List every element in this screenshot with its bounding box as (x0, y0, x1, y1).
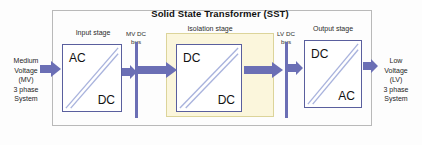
stage-label-isolation: Isolation stage (180, 25, 240, 32)
stage-label-input: Input stage (67, 29, 119, 36)
right-terminal-line3: (LV) (372, 75, 420, 85)
converter-block-output: DC AC (304, 40, 362, 108)
diagram-title: Solid State Transformer (SST) (140, 8, 300, 19)
mv-dc-bus-bar (135, 42, 138, 118)
stage-label-output: Output stage (305, 25, 361, 32)
arrow-input-to-mvbus-icon (122, 64, 138, 80)
diagram-canvas: Solid State Transformer (SST) Input stag… (0, 0, 422, 145)
block-input-bottom-label: DC (98, 93, 115, 107)
lv-dc-bus-label-line1: LV DC (272, 30, 300, 38)
right-terminal-label: Low Voltage (LV) 3 phase System (372, 56, 420, 104)
left-terminal-line4: 3 phase (2, 85, 50, 95)
arrow-lvbus-to-output-icon (288, 60, 304, 76)
converter-block-isolation: DC DC (176, 44, 242, 112)
left-terminal-label: Medium Voltage (MV) 3 phase System (2, 56, 50, 104)
left-terminal-line2: Voltage (2, 66, 50, 76)
block-isolation-bottom-label: DC (218, 93, 235, 107)
arrow-mvbus-to-isolation-icon (138, 61, 178, 79)
converter-block-input: AC DC (62, 44, 122, 112)
block-output-top-label: DC (311, 47, 328, 61)
block-isolation-top-label: DC (183, 51, 200, 65)
left-terminal-line3: (MV) (2, 75, 50, 85)
right-terminal-line1: Low (372, 56, 420, 66)
left-terminal-line1: Medium (2, 56, 50, 66)
right-terminal-line5: System (372, 94, 420, 104)
left-terminal-line5: System (2, 94, 50, 104)
right-terminal-line2: Voltage (372, 66, 420, 76)
arrow-isolation-to-lvbus-icon (244, 61, 284, 79)
block-input-top-label: AC (69, 51, 86, 65)
block-output-bottom-label: AC (338, 89, 355, 103)
lv-dc-bus-bar (285, 42, 288, 118)
right-terminal-line4: 3 phase (372, 85, 420, 95)
mv-dc-bus-label-line1: MV DC (122, 30, 150, 38)
